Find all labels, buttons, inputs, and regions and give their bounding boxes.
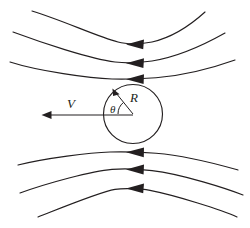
flow-arrowhead-top-1-icon [126, 39, 144, 49]
flow-arrowhead-bottom-3-icon [126, 183, 144, 193]
diagram-canvas: R θ V [0, 0, 250, 228]
flow-past-cylinder-figure: R θ V [0, 0, 250, 228]
streamline-bottom-2 [20, 169, 243, 195]
streamline-group-top [10, 11, 235, 84]
flow-arrowhead-bottom-2-icon [126, 165, 144, 175]
velocity-label: V [67, 96, 77, 111]
streamline-group-bottom [18, 148, 243, 218]
angle-arc [118, 103, 123, 115]
flow-arrowhead-top-2-icon [126, 58, 144, 68]
flow-arrowhead-top-3-icon [126, 74, 144, 84]
streamline-bottom-1 [18, 152, 238, 170]
cylinder-group: R θ [104, 85, 163, 144]
flow-arrowhead-bottom-1-icon [126, 148, 144, 158]
streamline-top-2 [13, 32, 225, 63]
velocity-arrowhead-icon [42, 111, 52, 119]
streamline-top-1 [32, 11, 205, 44]
streamline-bottom-3 [38, 189, 237, 217]
angle-label: θ [110, 103, 116, 115]
radius-label: R [129, 90, 138, 105]
